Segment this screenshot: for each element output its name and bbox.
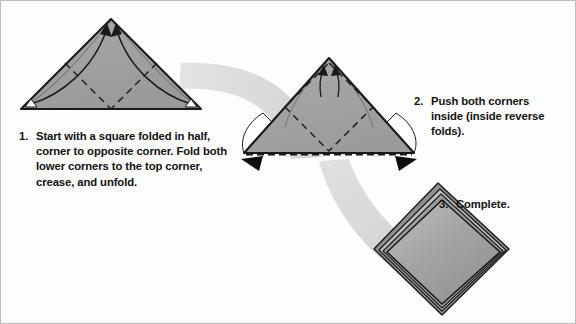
figure-step1: [21, 19, 201, 109]
diamond-face-step3: [387, 200, 500, 304]
step-2-number: 2.: [414, 94, 423, 109]
step-3-number: 3.: [439, 197, 448, 212]
push-arrow-left-step2[interactable]: [241, 156, 263, 171]
step-2-text: Push both corners inside (inside reverse…: [431, 94, 564, 140]
step-3-caption: 3. Complete.: [439, 197, 559, 212]
step-1-text: Start with a square folded in half, corn…: [36, 129, 234, 190]
push-arrow-right-step2[interactable]: [395, 156, 417, 171]
step-1-number: 1.: [19, 129, 28, 144]
triangle-body-step1: [21, 19, 201, 109]
step-3-text: Complete.: [456, 197, 559, 212]
step-2-caption: 2. Push both corners inside (inside reve…: [414, 94, 564, 140]
step-1-caption: 1. Start with a square folded in half, c…: [19, 129, 234, 190]
diagram-page: 1. Start with a square folded in half, c…: [0, 0, 576, 324]
